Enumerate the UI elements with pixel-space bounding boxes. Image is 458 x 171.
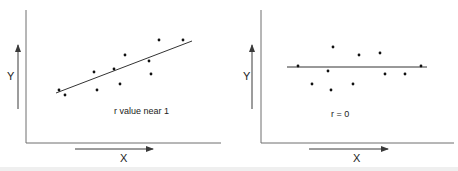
data-point — [150, 73, 153, 76]
data-point — [330, 89, 333, 92]
data-point — [404, 73, 407, 76]
panel-positive-correlation: Y X r value near 1 — [7, 10, 221, 164]
fit-line — [56, 41, 192, 93]
data-point — [119, 83, 122, 86]
data-point — [311, 83, 314, 86]
x-axis-label: X — [353, 152, 361, 164]
data-points — [297, 46, 423, 92]
data-point — [358, 54, 361, 57]
footer-band — [0, 167, 458, 171]
data-points — [58, 39, 185, 97]
data-point — [93, 71, 96, 74]
x-axis-label: X — [120, 152, 128, 164]
data-point — [327, 70, 330, 73]
panel-zero-correlation: Y X r = 0 — [243, 10, 454, 164]
data-point — [297, 65, 300, 68]
data-point — [384, 73, 387, 76]
correlation-annotation: r = 0 — [331, 109, 349, 119]
data-point — [158, 39, 161, 42]
data-point — [332, 46, 335, 49]
data-point — [96, 89, 99, 92]
correlation-annotation: r value near 1 — [114, 106, 169, 116]
data-point — [124, 54, 127, 57]
y-axis-label: Y — [243, 70, 251, 82]
data-point — [148, 60, 151, 63]
data-point — [58, 89, 61, 92]
correlation-diagram: Y X r value near 1 Y X r = 0 — [0, 0, 458, 171]
y-axis-label: Y — [7, 70, 15, 82]
data-point — [113, 68, 116, 71]
data-point — [182, 39, 185, 42]
data-point — [420, 65, 423, 68]
data-point — [64, 94, 67, 97]
data-point — [352, 83, 355, 86]
data-point — [379, 52, 382, 55]
